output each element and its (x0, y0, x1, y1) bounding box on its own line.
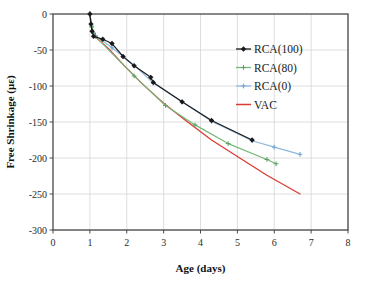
data-point-marker (241, 46, 246, 51)
grid-lines (53, 14, 348, 230)
data-point-marker (87, 11, 92, 16)
y-tick-label: -100 (29, 81, 47, 92)
y-tick-label: -200 (29, 153, 47, 164)
legend-label: RCA(80) (254, 62, 297, 75)
x-tick-label: 0 (51, 237, 56, 248)
x-axis-ticks: 012345678 (51, 230, 351, 248)
legend-entry-rca0[interactable]: RCA(0) (236, 80, 291, 93)
series-rca80 (87, 12, 278, 167)
legend: RCA(100)RCA(80)RCA(0)VAC (236, 43, 303, 111)
y-tick-label: -150 (29, 117, 47, 128)
legend-label: RCA(0) (254, 80, 291, 93)
y-tick-label: -300 (29, 225, 47, 236)
y-tick-label: 0 (42, 9, 47, 20)
x-tick-label: 7 (309, 237, 314, 248)
x-tick-label: 1 (87, 237, 92, 248)
series-line (90, 14, 252, 140)
y-axis-title: Free Shrinkage (με) (4, 75, 17, 169)
x-tick-label: 6 (272, 237, 277, 248)
x-tick-label: 8 (346, 237, 351, 248)
legend-entry-rca80[interactable]: RCA(80) (236, 62, 297, 75)
series-rca100 (87, 11, 255, 142)
legend-entry-vac[interactable]: VAC (236, 99, 277, 111)
x-tick-label: 5 (235, 237, 240, 248)
legend-label: VAC (254, 99, 277, 111)
x-tick-label: 2 (124, 237, 129, 248)
free-shrinkage-chart: 0123456780-50-100-150-200-250-300Age (da… (0, 0, 367, 286)
series-line (90, 14, 276, 164)
y-axis-ticks: 0-50-100-150-200-250-300 (29, 9, 53, 236)
x-tick-label: 3 (161, 237, 166, 248)
y-tick-label: -250 (29, 189, 47, 200)
x-axis-title: Age (days) (176, 262, 226, 275)
y-tick-label: -50 (34, 45, 47, 56)
chart-canvas: 0123456780-50-100-150-200-250-300Age (da… (0, 0, 367, 286)
legend-label: RCA(100) (254, 43, 303, 56)
x-tick-label: 4 (198, 237, 203, 248)
